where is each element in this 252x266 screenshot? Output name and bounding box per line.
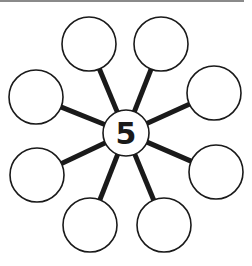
number-bond-diagram: 5 [0,0,252,266]
part-circle-upper-right[interactable] [187,66,241,120]
part-circle-top-left[interactable] [62,17,116,71]
connector-lower-right [145,141,192,161]
cut-off-footer-text [40,259,240,266]
part-circle-upper-left[interactable] [9,70,63,124]
connector-upper-left [60,107,106,126]
part-circle-bottom-left[interactable] [63,198,117,252]
connector-bottom-left [99,153,118,201]
part-circle-lower-left[interactable] [10,148,64,202]
part-circle-lower-right[interactable] [189,145,243,199]
connector-lower-left [61,142,107,164]
whole-circle-center: 5 [103,110,149,156]
part-circle-bottom-right[interactable] [137,198,191,252]
part-circle-top-right[interactable] [134,17,188,71]
connector-top-left [99,68,118,114]
connector-top-right [134,68,152,113]
center-number: 5 [116,116,137,151]
connector-bottom-right [134,152,154,201]
connector-upper-right [145,104,190,125]
